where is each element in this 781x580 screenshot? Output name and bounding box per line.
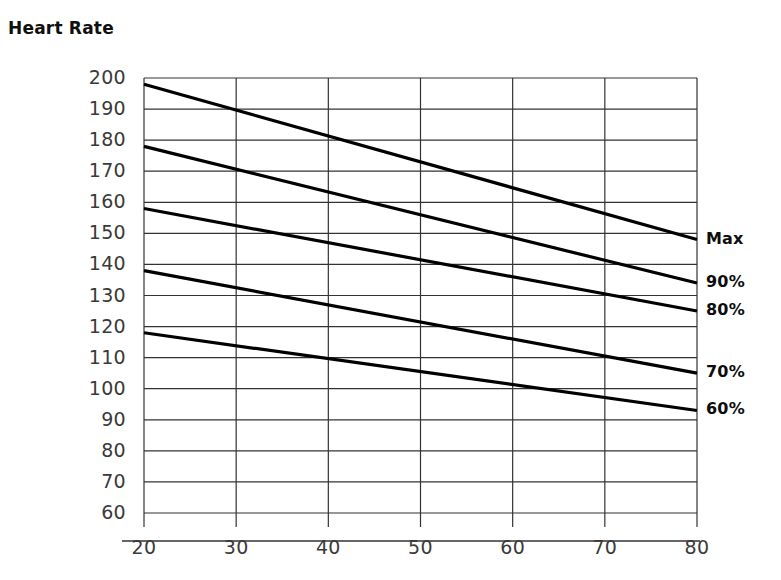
y-axis-tick-label: 160 <box>66 190 126 212</box>
x-axis-tick-label: 80 <box>667 536 727 558</box>
vertical-gridlines <box>144 78 697 527</box>
y-axis-tick-label: 60 <box>66 501 126 523</box>
y-axis-tick-label: 80 <box>66 439 126 461</box>
y-axis-tick-label: 120 <box>66 315 126 337</box>
series-label-max: Max <box>706 229 744 248</box>
series-label-60pct: 60% <box>706 399 745 418</box>
series-label-70pct: 70% <box>706 362 745 381</box>
y-axis-tick-label: 110 <box>66 346 126 368</box>
heart-rate-chart: Heart Rate 20019018017016015014013012011… <box>0 0 781 580</box>
x-axis-tick-label: 40 <box>298 536 358 558</box>
x-axis-tick-label: 60 <box>483 536 543 558</box>
y-axis-tick-label: 100 <box>66 377 126 399</box>
x-axis-tick-label: 30 <box>206 536 266 558</box>
x-axis-tick-label: 70 <box>575 536 635 558</box>
y-axis-tick-label: 180 <box>66 128 126 150</box>
x-axis-tick-label: 20 <box>114 536 174 558</box>
y-axis-tick-label: 170 <box>66 159 126 181</box>
y-axis-tick-label: 140 <box>66 252 126 274</box>
series-label-80pct: 80% <box>706 300 745 319</box>
series-label-90pct: 90% <box>706 272 745 291</box>
y-axis-tick-label: 150 <box>66 221 126 243</box>
y-axis-tick-label: 70 <box>66 470 126 492</box>
y-axis-tick-label: 200 <box>66 66 126 88</box>
y-axis-tick-label: 130 <box>66 284 126 306</box>
y-axis-tick-label: 90 <box>66 408 126 430</box>
x-axis-tick-label: 50 <box>391 536 451 558</box>
y-axis-tick-label: 190 <box>66 97 126 119</box>
